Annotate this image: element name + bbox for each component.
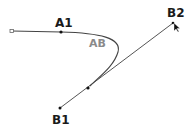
label-b2: B2 (167, 6, 185, 20)
point-b1[interactable] (59, 107, 62, 110)
line-b1-b2[interactable] (60, 23, 173, 108)
start-handle-icon[interactable] (10, 30, 14, 33)
label-a1: A1 (55, 16, 73, 30)
point-mid[interactable] (86, 86, 89, 89)
label-b1: B1 (52, 113, 70, 127)
point-a1[interactable] (59, 30, 62, 33)
cursor-arrow-icon (174, 23, 180, 32)
diagram-canvas: A1 AB B1 B2 (0, 0, 193, 130)
label-ab: AB (89, 37, 106, 50)
